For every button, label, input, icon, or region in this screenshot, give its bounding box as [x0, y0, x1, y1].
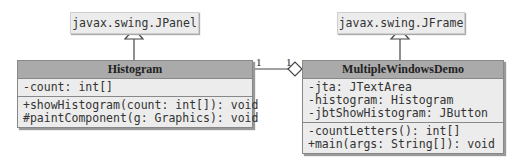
field: -jbtShowHistogram: JButton	[308, 107, 498, 120]
fields: -jta: JTextArea -histogram: Histogram -j…	[303, 79, 503, 122]
histogram-class: Histogram -count: int[] +showHistogram(c…	[17, 60, 253, 128]
method: +main(args: String[]): void	[308, 138, 498, 151]
class-name: Histogram	[18, 61, 252, 79]
left-multiplicity: 1	[256, 56, 262, 68]
fields: -count: int[]	[18, 79, 252, 96]
method: #paintComponent(g: Graphics): void	[23, 112, 247, 125]
jframe-superclass: javax.swing.JFrame	[337, 12, 465, 34]
multiple-windows-demo-class: MultipleWindowsDemo -jta: JTextArea -his…	[302, 60, 504, 154]
right-multiplicity: 1	[286, 56, 292, 68]
methods: -countLetters(): int[] +main(args: Strin…	[303, 122, 503, 153]
field: -count: int[]	[23, 81, 247, 94]
jpanel-superclass: javax.swing.JPanel	[70, 12, 199, 34]
class-name: MultipleWindowsDemo	[303, 61, 503, 79]
methods: +showHistogram(count: int[]): void #pain…	[18, 96, 252, 127]
